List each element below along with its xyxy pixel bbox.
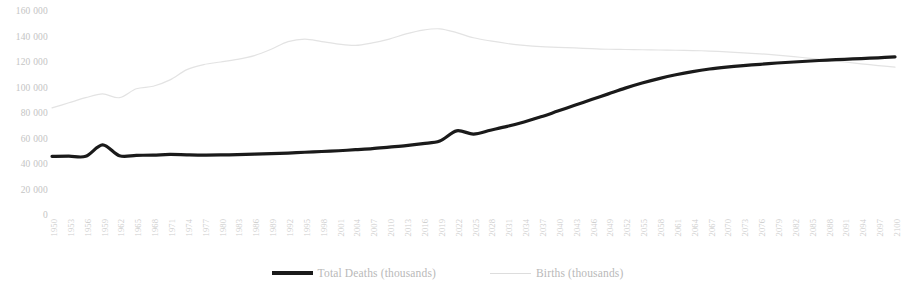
series-line-total-deaths xyxy=(52,57,895,157)
x-axis-tick-label: 2049 xyxy=(605,219,615,236)
x-axis-tick-label: 1959 xyxy=(100,219,110,236)
x-axis-tick-label: 1986 xyxy=(251,219,261,236)
series-line-births xyxy=(52,29,895,108)
x-axis-tick-label: 2067 xyxy=(707,219,717,236)
x-axis-tick-label: 2082 xyxy=(791,219,801,236)
y-axis-tick-label: 120 000 xyxy=(16,57,48,67)
x-axis-tick-label: 1956 xyxy=(83,219,93,236)
x-axis-tick-label: 1950 xyxy=(49,219,59,236)
y-axis-tick-label: 0 xyxy=(43,210,48,220)
y-axis-tick-label: 140 000 xyxy=(16,32,48,42)
x-axis-tick-label: 2094 xyxy=(858,219,868,236)
x-axis-tick-label: 2052 xyxy=(622,219,632,236)
x-axis-tick-label: 2010 xyxy=(386,219,396,236)
x-axis-tick-label: 2043 xyxy=(572,219,582,236)
x-axis-tick-label: 1962 xyxy=(116,219,126,236)
x-axis-tick-label: 2100 xyxy=(892,219,902,236)
legend-swatch-births-icon xyxy=(490,273,531,274)
x-axis-tick-label: 2046 xyxy=(589,219,599,236)
x-axis-tick-label: 1953 xyxy=(66,219,76,236)
x-axis-tick-label: 2007 xyxy=(369,219,379,236)
plot-area xyxy=(52,11,895,215)
x-axis-tick-label: 1992 xyxy=(285,219,295,236)
legend-item-births: Births (thousands) xyxy=(490,267,623,279)
x-axis-tick-label: 2097 xyxy=(875,219,885,236)
x-axis-tick-label: 2061 xyxy=(673,219,683,236)
x-axis-tick-label: 2016 xyxy=(420,219,430,236)
legend-swatch-total-deaths-icon xyxy=(272,271,313,275)
x-axis-tick-label: 2079 xyxy=(774,219,784,236)
legend-label-total-deaths: Total Deaths (thousands) xyxy=(318,267,436,279)
x-axis-tick-label: 2055 xyxy=(639,219,649,236)
x-axis-tick-label: 2037 xyxy=(538,219,548,236)
x-axis-tick-label: 2058 xyxy=(656,219,666,236)
x-axis-tick-label: 2031 xyxy=(504,219,514,236)
y-axis-tick-label: 40 000 xyxy=(21,159,48,169)
plot-svg xyxy=(52,11,895,215)
x-axis-tick-label: 1965 xyxy=(133,219,143,236)
y-axis: 020 00040 00060 00080 000100 000120 0001… xyxy=(0,0,52,220)
y-axis-tick-label: 100 000 xyxy=(16,83,48,93)
x-axis-tick-label: 2013 xyxy=(403,219,413,236)
x-axis-tick-label: 2019 xyxy=(437,219,447,236)
x-axis-tick-label: 2085 xyxy=(808,219,818,236)
legend-label-births: Births (thousands) xyxy=(536,267,623,279)
x-axis-tick-label: 1983 xyxy=(234,219,244,236)
x-axis-tick-label: 2001 xyxy=(336,219,346,236)
x-axis-tick-label: 2070 xyxy=(723,219,733,236)
x-axis-tick-label: 2040 xyxy=(555,219,565,236)
x-axis-tick-label: 2088 xyxy=(825,219,835,236)
y-axis-tick-label: 20 000 xyxy=(21,185,48,195)
legend-item-total-deaths: Total Deaths (thousands) xyxy=(272,267,436,279)
x-axis-tick-label: 1980 xyxy=(218,219,228,236)
x-axis-tick-label: 1968 xyxy=(150,219,160,236)
x-axis-tick-label: 2004 xyxy=(352,219,362,236)
x-axis-tick-label: 2028 xyxy=(487,219,497,236)
x-axis: 1950195319561959196219651968197119741977… xyxy=(52,215,895,260)
x-axis-tick-label: 2025 xyxy=(471,219,481,236)
x-axis-tick-label: 1998 xyxy=(319,219,329,236)
x-axis-tick-label: 2076 xyxy=(757,219,767,236)
y-axis-tick-label: 160 000 xyxy=(16,6,48,16)
x-axis-tick-label: 2034 xyxy=(521,219,531,236)
x-axis-tick-label: 1977 xyxy=(201,219,211,236)
x-axis-tick-label: 1989 xyxy=(268,219,278,236)
x-axis-tick-label: 2022 xyxy=(454,219,464,236)
x-axis-tick-label: 1995 xyxy=(302,219,312,236)
x-axis-tick-label: 2073 xyxy=(740,219,750,236)
x-axis-tick-label: 2091 xyxy=(841,219,851,236)
chart-legend: Total Deaths (thousands) Births (thousan… xyxy=(0,263,895,283)
y-axis-tick-label: 80 000 xyxy=(21,108,48,118)
x-axis-tick-label: 1974 xyxy=(184,219,194,236)
y-axis-tick-label: 60 000 xyxy=(21,134,48,144)
x-axis-tick-label: 2064 xyxy=(690,219,700,236)
x-axis-tick-label: 1971 xyxy=(167,219,177,236)
